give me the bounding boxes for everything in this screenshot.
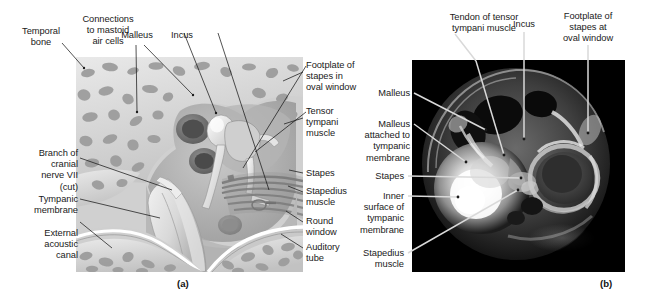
label-external-acoustic-canal: External acoustic canal xyxy=(0,228,78,262)
label-incus-b: Incus xyxy=(505,19,543,30)
label-malleus-attached-to-tympanic-membrane: Malleus attached to tympanic membrane xyxy=(330,119,410,164)
ear-anatomy-figure: Temporal bone Connections to mastoid air… xyxy=(0,0,648,302)
label-inner-surface-of-tympanic-membrane: Inner surface of tympanic membrane xyxy=(330,191,404,236)
label-branch-of-cranial-nerve-vii: Branch of cranial nerve VII (cut) xyxy=(0,148,78,193)
label-footplate-of-stapes-at-oval-window: Footplate of stapes at oval window xyxy=(551,11,625,45)
caption-panel-b: (b) xyxy=(600,278,612,289)
label-incus-a: Incus xyxy=(163,30,201,41)
label-stapes-b: Stapes xyxy=(330,171,404,182)
caption-panel-a: (a) xyxy=(177,278,189,289)
label-stapedius-muscle-b: Stapedius muscle xyxy=(330,248,404,270)
label-malleus-b: Malleus xyxy=(330,88,410,99)
label-malleus-a: Malleus xyxy=(113,30,161,41)
label-tympanic-membrane-a: Tympanic membrane xyxy=(0,194,78,216)
label-temporal-bone: Temporal bone xyxy=(12,26,70,48)
